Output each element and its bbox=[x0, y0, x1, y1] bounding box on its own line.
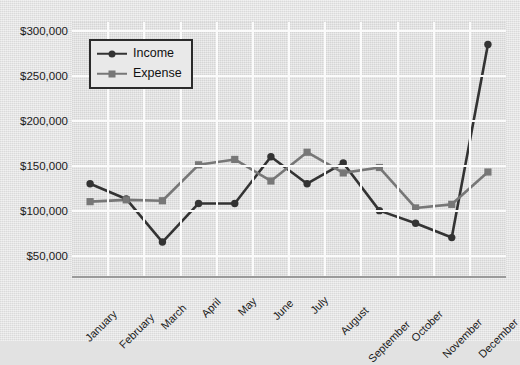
data-point-income[interactable] bbox=[412, 220, 419, 227]
legend-item-expense[interactable]: Expense bbox=[97, 65, 182, 82]
x-axis-tick-label: January bbox=[111, 280, 147, 316]
gridline-vertical bbox=[288, 22, 290, 276]
data-point-income[interactable] bbox=[484, 41, 491, 48]
data-point-expense[interactable] bbox=[159, 197, 166, 204]
x-axis-tick-label: July bbox=[322, 280, 344, 302]
y-axis-tick-label: $300,000 bbox=[2, 25, 68, 37]
y-axis-tick-label: $50,000 bbox=[2, 250, 68, 262]
data-point-expense[interactable] bbox=[340, 169, 347, 176]
gridline-vertical bbox=[433, 22, 435, 276]
x-axis: JanuaryFebruaryMarchAprilMayJuneJulyAugu… bbox=[72, 280, 506, 341]
data-point-expense[interactable] bbox=[484, 168, 491, 175]
legend-label-income: Income bbox=[133, 47, 174, 60]
legend-label-expense: Expense bbox=[133, 67, 182, 80]
expense-line-swatch-icon bbox=[97, 68, 127, 80]
legend-item-income[interactable]: Income bbox=[97, 45, 182, 62]
data-point-expense[interactable] bbox=[267, 177, 274, 184]
gridline-vertical bbox=[360, 22, 362, 276]
data-point-income[interactable] bbox=[448, 234, 455, 241]
x-axis-tick-label: August bbox=[362, 280, 395, 313]
data-point-income[interactable] bbox=[195, 200, 202, 207]
y-axis-tick-label: $100,000 bbox=[2, 205, 68, 217]
y-axis-tick-label: $200,000 bbox=[2, 115, 68, 127]
data-point-expense[interactable] bbox=[86, 198, 93, 205]
y-axis-tick-label: $150,000 bbox=[2, 160, 68, 172]
data-point-income[interactable] bbox=[231, 200, 238, 207]
income-line-swatch-icon bbox=[97, 48, 127, 60]
data-point-income[interactable] bbox=[159, 238, 166, 245]
gridline-vertical bbox=[252, 22, 254, 276]
data-point-income[interactable] bbox=[86, 180, 93, 187]
data-point-expense[interactable] bbox=[231, 156, 238, 163]
x-axis-tick-label: June bbox=[287, 280, 312, 305]
data-point-expense[interactable] bbox=[448, 201, 455, 208]
gridline-vertical bbox=[397, 22, 399, 276]
x-axis-tick-label: May bbox=[250, 280, 273, 303]
data-point-expense[interactable] bbox=[123, 196, 130, 203]
y-axis: $50,000$100,000$150,000$200,000$250,000$… bbox=[0, 22, 68, 278]
gridline-vertical bbox=[216, 22, 218, 276]
gridline-vertical bbox=[469, 22, 471, 276]
data-point-income[interactable] bbox=[303, 180, 310, 187]
data-point-income[interactable] bbox=[267, 153, 274, 160]
y-axis-tick-label: $250,000 bbox=[2, 70, 68, 82]
data-point-expense[interactable] bbox=[303, 149, 310, 156]
gridline-vertical bbox=[324, 22, 326, 276]
chart-legend: Income Expense bbox=[89, 39, 193, 89]
x-axis-tick-label: April bbox=[214, 280, 238, 304]
